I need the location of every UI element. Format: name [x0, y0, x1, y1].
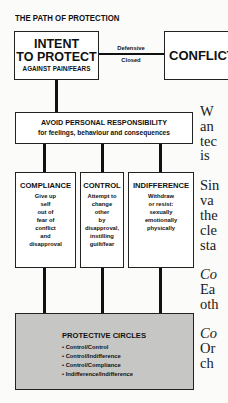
prose-fragment-italic: Co [200, 326, 217, 341]
list-item: • Control/Indifference [62, 352, 133, 361]
connector-avoid-indifference [159, 144, 162, 172]
indifference-body: Withdraw or resist: sexually emotionally… [129, 192, 193, 232]
control-body: Attempt to change other by disapproval, … [81, 192, 123, 248]
prose-fragment: Ea [200, 282, 215, 297]
control-box: CONTROL Attempt to change other by disap… [80, 172, 124, 268]
compliance-box: COMPLIANCE Give up self out of fear of c… [15, 172, 76, 268]
prose-fragment: ch [200, 356, 214, 371]
diagram-title: THE PATH OF PROTECTION [15, 13, 119, 23]
avoid-responsibility-box: AVOID PERSONAL RESPONSIBILITY for feelin… [15, 112, 193, 144]
intent-line-3: AGAINST PAIN/FEARS [15, 64, 98, 73]
prose-fragment: va [200, 193, 214, 208]
prose-fragment: W [200, 104, 214, 119]
prose-fragment: an [200, 119, 214, 134]
connector-control-circles [101, 268, 104, 313]
compliance-heading: COMPLIANCE [16, 180, 75, 191]
prose-fragment-italic: Co [200, 267, 217, 282]
prose-fragment: Sin [200, 178, 219, 193]
prose-fragment: sta [200, 238, 216, 253]
prose-fragment: Or [200, 341, 215, 356]
prose-fragment: the [200, 208, 218, 223]
indifference-box: INDIFFERENCE Withdraw or resist: sexuall… [128, 172, 194, 268]
protective-circles-box: PROTECTIVE CIRCLES • Control/Control • C… [15, 313, 194, 390]
connector-intent-conflict [99, 53, 164, 55]
list-item: • Control/Compliance [62, 361, 133, 370]
control-heading: CONTROL [81, 180, 123, 191]
protective-circles-heading: PROTECTIVE CIRCLES [62, 331, 146, 340]
prose-fragment: is [200, 148, 210, 163]
connector-intent-avoid [55, 80, 58, 112]
prose-fragment: cle [200, 223, 217, 238]
conflict-box: CONFLICT [164, 31, 228, 80]
prose-fragment: oth [200, 297, 219, 312]
avoid-subheading: for feelings, behaviour and consequences [16, 128, 192, 138]
conflict-label: CONFLICT [169, 48, 228, 63]
connector-avoid-compliance [43, 144, 46, 172]
connector-compliance-circles [43, 268, 46, 313]
protective-circles-list: • Control/Control • Control/Indifference… [62, 343, 133, 379]
list-item: • Control/Control [62, 343, 133, 352]
link-label-defensive: Defensive [99, 45, 163, 51]
intent-line-2: TO PROTECT [15, 51, 98, 64]
avoid-heading: AVOID PERSONAL RESPONSIBILITY [16, 118, 192, 128]
compliance-body: Give up self out of fear of conflict and… [16, 192, 75, 248]
connector-indifference-circles [159, 268, 162, 313]
connector-avoid-control [101, 144, 104, 172]
indifference-heading: INDIFFERENCE [129, 180, 193, 191]
link-label-closed: Closed [99, 57, 163, 63]
intent-to-protect-box: INTENT TO PROTECT AGAINST PAIN/FEARS [14, 31, 99, 80]
list-item: • Indifference/Indifference [62, 370, 133, 379]
